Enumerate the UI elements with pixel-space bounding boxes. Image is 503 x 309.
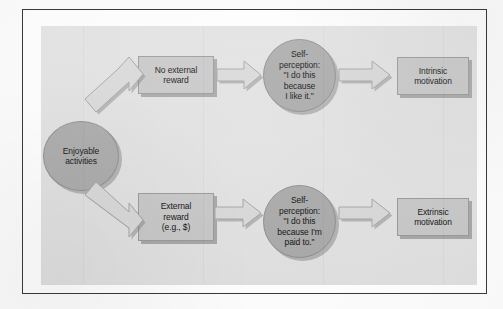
- node-self-perception-intrinsic-line1: Self-: [279, 49, 320, 60]
- flowchart-diagram-panel: Enjoyable activities No external reward …: [41, 26, 477, 285]
- arrow-self-perception-to-extrinsic-motivation: [339, 199, 397, 232]
- node-intrinsic-motivation[interactable]: Intrinsic motivation: [397, 57, 469, 95]
- node-intrinsic-motivation-line2: motivation: [414, 76, 452, 87]
- node-self-perception-extrinsic-line3: "I do this: [277, 216, 321, 227]
- node-no-external-reward-line1: No external: [155, 65, 197, 76]
- arrow-enjoyable-to-no-external-reward: [85, 57, 147, 129]
- node-external-reward-line3: (e.g., $): [161, 222, 191, 233]
- node-self-perception-intrinsic[interactable]: Self- perception: "I do this because I l…: [263, 39, 336, 112]
- node-self-perception-extrinsic-line5: paid to.": [277, 237, 321, 248]
- node-enjoyable-activities-line2: activities: [63, 156, 99, 167]
- arrow-external-reward-to-self-perception: [215, 199, 265, 232]
- node-extrinsic-motivation[interactable]: Extrinsic motivation: [397, 198, 469, 236]
- node-self-perception-extrinsic-line2: perception:: [277, 206, 321, 217]
- arrow-enjoyable-to-external-reward: [85, 181, 147, 247]
- node-intrinsic-motivation-line1: Intrinsic: [414, 66, 452, 77]
- node-self-perception-extrinsic-line1: Self-: [277, 195, 321, 206]
- node-self-perception-intrinsic-line5: I like it.": [279, 91, 320, 102]
- figure-frame: Enjoyable activities No external reward …: [22, 9, 487, 294]
- node-self-perception-intrinsic-line3: "I do this: [279, 70, 320, 81]
- arrow-no-external-reward-to-self-perception: [217, 61, 265, 94]
- node-no-external-reward[interactable]: No external reward: [138, 56, 214, 94]
- arrow-self-perception-to-intrinsic-motivation: [339, 61, 397, 94]
- node-self-perception-intrinsic-line4: because: [279, 81, 320, 92]
- node-external-reward-line2: reward: [161, 212, 191, 223]
- node-self-perception-intrinsic-line2: perception:: [279, 60, 320, 71]
- node-external-reward[interactable]: External reward (e.g., $): [138, 193, 214, 241]
- node-extrinsic-motivation-line1: Extrinsic: [414, 207, 452, 218]
- node-self-perception-extrinsic-line4: because I'm: [277, 227, 321, 238]
- node-no-external-reward-line2: reward: [155, 75, 197, 86]
- node-extrinsic-motivation-line2: motivation: [414, 217, 452, 228]
- node-external-reward-line1: External: [161, 201, 191, 212]
- node-enjoyable-activities-line1: Enjoyable: [63, 146, 99, 157]
- node-self-perception-extrinsic[interactable]: Self- perception: "I do this because I'm…: [263, 185, 336, 258]
